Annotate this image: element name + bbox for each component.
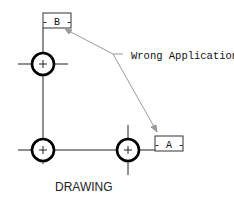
caption-text: DRAWING	[55, 180, 113, 194]
datum-a-label: - A -	[154, 140, 184, 151]
leader-lines	[65, 29, 157, 132]
datum-a-feature: - A -	[154, 136, 184, 151]
datum-drawing: - B - - A - Wrong Application DRAWING	[0, 0, 234, 201]
hole-bottom-right	[117, 139, 139, 161]
hole-bottom-left	[32, 139, 54, 161]
hole-top	[32, 53, 54, 75]
arrowhead-a-icon	[151, 125, 157, 132]
datum-b-label: - B -	[42, 17, 72, 28]
datum-b-feature: - B -	[42, 13, 72, 28]
leader-to-b	[65, 29, 113, 54]
arrowhead-b-icon	[65, 29, 72, 34]
leader-to-a	[113, 54, 157, 132]
annotation-text: Wrong Application	[131, 50, 234, 62]
